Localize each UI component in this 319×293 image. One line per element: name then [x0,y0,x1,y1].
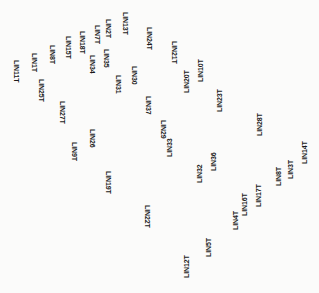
diagram-label-lin25t: LIN25T [38,79,45,102]
diagram-label-lin35: LIN35 [103,49,110,68]
diagram-label-lin24t: LIN24T [146,27,153,50]
diagram-label-lin7t: LIN7T [94,25,101,44]
diagram-label-lin3t: LIN3T [287,160,294,179]
diagram-label-lin34: LIN34 [89,55,96,74]
diagram-label-lin30: LIN30 [131,66,138,85]
diagram-label-lin10t: LIN10T [197,59,204,82]
diagram-label-lin14t: LIN14T [301,141,308,164]
diagram-label-lin1t: LIN1T [31,53,38,72]
diagram-label-lin17t: LIN17T [255,184,262,207]
diagram-label-lin8t-b: LIN8T [275,167,282,186]
diagram-label-lin15t: LIN15T [65,36,72,59]
diagram-label-lin2t: LIN2T [105,19,112,38]
diagram-label-lin18t: LIN18T [79,31,86,54]
diagram-label-lin4t: LIN4T [232,211,239,230]
diagram-label-lin21t: LIN21T [171,41,178,64]
diagram-label-lin28t: LIN28T [256,113,263,136]
diagram-label-lin20t: LIN20T [183,70,190,93]
diagram-label-lin22t: LIN22T [144,205,151,228]
diagram-label-lin12t: LIN12T [183,255,190,278]
diagram-label-lin11t: LIN11T [13,60,20,82]
diagram-label-lin37: LIN37 [145,96,152,115]
diagram-label-lin9t: LIN9T [71,142,78,161]
diagram-label-lin5t: LIN5T [205,238,212,257]
diagram-label-lin8t-a: LIN8T [49,45,56,64]
diagram-canvas: LIN11TLIN1TLIN25TLIN8TLIN15TLIN18TLIN7TL… [0,0,319,293]
diagram-label-lin19t: LIN19T [105,171,112,194]
diagram-label-lin16t: LIN16T [241,193,248,216]
diagram-label-lin36: LIN36 [210,152,217,171]
diagram-label-lin31: LIN31 [115,75,122,94]
diagram-label-lin33: LIN33 [166,138,173,157]
diagram-label-lin26: LIN26 [89,129,96,148]
diagram-label-lin32: LIN32 [196,164,203,183]
diagram-label-lin13t: LIN13T [122,12,129,35]
diagram-label-lin27t: LIN27T [59,101,66,124]
diagram-label-lin23t: LIN23T [216,89,223,112]
diagram-label-lin29: LIN29 [160,120,167,139]
